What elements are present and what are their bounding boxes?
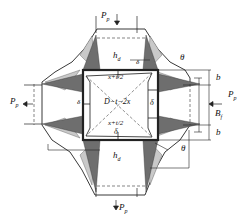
- theta-label-top: θ: [180, 53, 184, 62]
- load-label-right: Pp: [228, 90, 237, 101]
- load-label-top: Pp: [101, 11, 110, 22]
- delta-label-bottom: δ: [114, 128, 118, 136]
- x-t2-label-bottom: x+t/2: [108, 120, 123, 127]
- bf-label: Bf: [215, 109, 222, 120]
- h-label-bottom: hd: [113, 151, 121, 162]
- load-label-bottom: Pp: [119, 203, 128, 214]
- delta-label-left: δ: [77, 99, 80, 106]
- center-label: D−t−2x: [104, 98, 130, 106]
- h-label-top: hd: [113, 51, 121, 62]
- delta-label-top: δ: [136, 59, 139, 66]
- load-label-left: Pp: [10, 97, 19, 108]
- delta-label-right: δ: [150, 99, 154, 107]
- deformation-diagram: [0, 0, 245, 223]
- theta-label-bottom: θ: [181, 144, 185, 153]
- b-label-bottom: b: [216, 128, 221, 137]
- b-label-top: b: [216, 73, 221, 82]
- x-t2-label-top: x+t/2: [108, 74, 123, 81]
